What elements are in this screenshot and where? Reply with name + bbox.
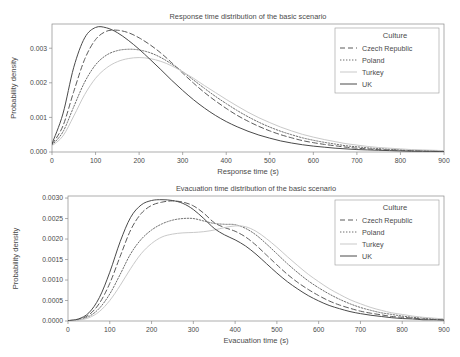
legend-title: Culture xyxy=(383,203,407,212)
x-tick-label: 400 xyxy=(229,326,241,333)
x-tick-label: 100 xyxy=(90,157,102,164)
x-tick-label: 700 xyxy=(351,157,363,164)
x-tick-label: 0 xyxy=(50,157,54,164)
y-axis-label: Probability density xyxy=(11,227,20,289)
x-axis-label: Response time (s) xyxy=(217,167,279,176)
x-tick-label: 300 xyxy=(188,326,200,333)
legend-label-turkey: Turkey xyxy=(362,68,384,77)
x-tick-label: 600 xyxy=(313,326,325,333)
y-tick-label: 0.0020 xyxy=(42,235,63,242)
x-tick-label: 500 xyxy=(264,157,276,164)
legend-label-poland: Poland xyxy=(362,228,384,237)
y-tick-label: 0.002 xyxy=(30,79,47,86)
y-axis-label: Probability density xyxy=(9,57,18,119)
legend-label-turkey: Turkey xyxy=(362,240,384,249)
x-axis-label: Evacuation time (s) xyxy=(224,336,289,345)
x-tick-label: 800 xyxy=(397,326,409,333)
y-tick-label: 0.0000 xyxy=(42,317,63,324)
chart-title: Evacuation time distribution of the basi… xyxy=(176,184,336,193)
legend-title: Culture xyxy=(383,31,407,40)
y-tick-label: 0.0005 xyxy=(42,297,63,304)
chart-svg-0: Response time distribution of the basic … xyxy=(0,0,460,180)
x-tick-label: 900 xyxy=(438,326,450,333)
x-tick-label: 200 xyxy=(146,326,158,333)
x-tick-label: 300 xyxy=(177,157,189,164)
x-tick-label: 700 xyxy=(355,326,367,333)
legend: CultureCzech RepublicPolandTurkeyUK xyxy=(335,200,439,265)
legend: CultureCzech RepublicPolandTurkeyUK xyxy=(335,28,439,93)
chart-panel-evacuation-time: Evacuation time distribution of the basi… xyxy=(0,180,460,357)
legend-label-uk: UK xyxy=(362,80,372,89)
legend-label-poland: Poland xyxy=(362,56,384,65)
x-tick-label: 100 xyxy=(104,326,116,333)
x-tick-label: 500 xyxy=(271,326,283,333)
y-tick-label: 0.003 xyxy=(30,45,47,52)
x-tick-label: 600 xyxy=(308,157,320,164)
chart-title: Response time distribution of the basic … xyxy=(170,12,327,21)
x-tick-label: 200 xyxy=(133,157,145,164)
legend-label-czech-republic: Czech Republic xyxy=(362,44,413,53)
x-tick-label: 900 xyxy=(438,157,450,164)
chart-panel-response-time: Response time distribution of the basic … xyxy=(0,0,460,180)
figure-canvas: Response time distribution of the basic … xyxy=(0,0,460,357)
legend-label-czech-republic: Czech Republic xyxy=(362,216,413,225)
y-tick-label: 0.000 xyxy=(30,148,47,155)
y-tick-label: 0.0025 xyxy=(42,215,63,222)
x-tick-label: 800 xyxy=(395,157,407,164)
x-tick-label: 400 xyxy=(221,157,233,164)
x-tick-label: 0 xyxy=(66,326,70,333)
y-tick-label: 0.0010 xyxy=(42,276,63,283)
legend-label-uk: UK xyxy=(362,252,372,261)
y-tick-label: 0.0015 xyxy=(42,256,63,263)
y-tick-label: 0.0030 xyxy=(42,194,63,201)
chart-svg-1: Evacuation time distribution of the basi… xyxy=(0,180,460,357)
y-tick-label: 0.001 xyxy=(30,114,47,121)
